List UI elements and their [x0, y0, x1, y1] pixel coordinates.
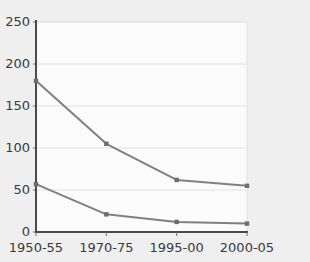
- x-axis-tick-label: 1995-00: [150, 240, 204, 255]
- data-point-marker: [245, 221, 249, 225]
- y-axis-tick-label: 250: [5, 14, 30, 29]
- data-point-marker: [104, 142, 108, 146]
- x-axis-tick-label: 1950-55: [9, 240, 63, 255]
- data-point-marker: [104, 212, 108, 216]
- y-axis-tick-label: 50: [13, 182, 30, 197]
- line-chart: 050100150200250 1950-551970-751995-00200…: [0, 0, 310, 262]
- x-axis-tick-label: 1970-75: [79, 240, 133, 255]
- y-axis-tick-label: 100: [5, 140, 30, 155]
- x-axis-tick-label: 2000-05: [220, 240, 274, 255]
- x-axis-tick-labels: 1950-551970-751995-002000-05: [9, 240, 274, 255]
- plot-area-background: [36, 22, 247, 232]
- data-point-marker: [34, 182, 38, 186]
- data-point-marker: [174, 178, 178, 182]
- y-axis-tick-label: 0: [22, 224, 30, 239]
- y-axis-tick-labels: 050100150200250: [5, 14, 36, 239]
- chart-canvas: 050100150200250 1950-551970-751995-00200…: [0, 0, 310, 262]
- y-axis-tick-label: 200: [5, 56, 30, 71]
- data-point-marker: [34, 79, 38, 83]
- data-point-marker: [174, 220, 178, 224]
- y-axis-tick-label: 150: [5, 98, 30, 113]
- data-point-marker: [245, 184, 249, 188]
